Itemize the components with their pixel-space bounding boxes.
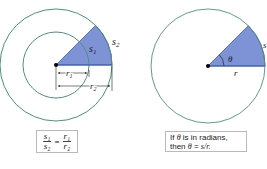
label-s2: s2 <box>112 36 120 49</box>
center-point <box>206 64 210 68</box>
radian-caption-box: If θ is in radians, then θ = s/r. <box>165 131 247 152</box>
center-point <box>54 63 58 67</box>
caption-text: If <box>170 133 177 142</box>
outer-sector <box>56 25 112 65</box>
fraction-s: s₁ s₂ <box>43 132 52 151</box>
label-r2: r2 <box>90 81 97 92</box>
caption-text: then <box>170 142 188 151</box>
ratio-formula-box: s₁ s₂ = r₁ r₂ <box>36 130 78 153</box>
label-r1: r1 <box>66 68 73 79</box>
denominator-r2: r₂ <box>64 142 71 151</box>
caption-line-1: If θ is in radians, <box>170 133 242 142</box>
equals-sign: = <box>192 142 201 151</box>
label-s: s <box>263 40 267 50</box>
fraction-r: r₁ r₂ <box>63 132 72 151</box>
label-theta: θ <box>228 54 233 64</box>
left-diagram <box>0 9 112 121</box>
right-diagram <box>151 9 265 123</box>
denominator-s2: s₂ <box>44 142 51 151</box>
caption-text: is in radians, <box>181 133 228 142</box>
caption-line-2: then θ = s/r. <box>170 142 242 151</box>
formula-expression: s/r. <box>201 142 211 151</box>
equals-sign: = <box>54 137 59 147</box>
sector <box>208 26 265 66</box>
label-r: r <box>234 68 238 78</box>
